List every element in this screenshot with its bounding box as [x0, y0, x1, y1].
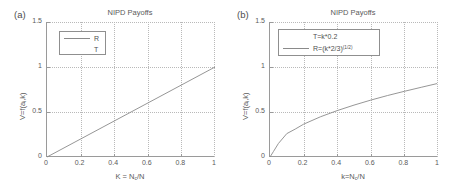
- panel-a-title: NIPD Payoffs: [46, 8, 214, 17]
- panel-a-legend[interactable]: R T: [59, 31, 106, 55]
- panel-a-ylabel: V=f(ai,k): [18, 92, 27, 120]
- panel-b-xlabel: k=Nc/N: [269, 172, 437, 181]
- legend-entry-R[interactable]: R: [60, 32, 105, 44]
- legend-label-T: T: [94, 46, 98, 53]
- panel-b-ylabel-pre: V=f(a: [241, 102, 250, 120]
- panel-a-ylabel-post: ,k): [18, 92, 27, 100]
- xtick-label-0: 0: [259, 159, 279, 166]
- xtick-label-1: 1: [204, 159, 224, 166]
- ytick-label-1.5: 1.5: [20, 17, 42, 24]
- legend-label-R-exponent: (1/2): [343, 45, 353, 50]
- panel-a-ylabel-pre: V=f(a: [18, 102, 27, 120]
- xtick-label-0.6: 0.6: [360, 159, 380, 166]
- panel-b-xlabel-post: /N: [357, 172, 365, 181]
- ytick-label-1: 1: [243, 62, 265, 69]
- xtick-label-0.6: 0.6: [137, 159, 157, 166]
- legend-entry-R[interactable]: R=(k*2/3)(1/2): [279, 42, 379, 54]
- xtick-label-0.4: 0.4: [326, 159, 346, 166]
- ytick-label-0: 0: [243, 152, 265, 159]
- legend-entry-T[interactable]: T=k*0.2: [279, 30, 379, 42]
- legend-label-R: R=(k*2/3)(1/2): [313, 45, 353, 52]
- panel-b-ylabel: V=f(ai,k): [241, 92, 250, 120]
- legend-line-swatch-R: [283, 48, 309, 49]
- panel-b-legend[interactable]: T=k*0.2 R=(k*2/3)(1/2): [278, 29, 380, 56]
- xtick-label-0.8: 0.8: [393, 159, 413, 166]
- panel-b-title: NIPD Payoffs: [269, 8, 437, 17]
- legend-line-swatch-T: [64, 49, 90, 50]
- figure-nipd-payoffs: (a) NIPD Payoffs 0 0.2: [0, 0, 457, 194]
- legend-line-swatch-R: [64, 38, 90, 39]
- legend-entry-T[interactable]: T: [60, 44, 105, 55]
- panel-a: (a) NIPD Payoffs 0 0.2: [0, 0, 228, 194]
- ytick-label-1.5: 1.5: [243, 17, 265, 24]
- legend-label-T: T=k*0.2: [313, 33, 337, 40]
- xtick-label-0.2: 0.2: [293, 159, 313, 166]
- legend-label-R: R: [94, 35, 99, 42]
- panel-a-xlabel-post: /N: [137, 172, 145, 181]
- panel-b: (b) NIPD Payoffs 0 0.2 0.4 0.6: [229, 0, 457, 194]
- panel-b-ylabel-post: ,k): [241, 92, 250, 100]
- ytick-label-1: 1: [20, 62, 42, 69]
- xtick-label-0.4: 0.4: [103, 159, 123, 166]
- xtick-label-0.8: 0.8: [170, 159, 190, 166]
- panel-b-xlabel-pre: k=N: [341, 172, 355, 181]
- legend-line-swatch-T: [283, 36, 309, 37]
- xtick-label-0.2: 0.2: [70, 159, 90, 166]
- panel-a-xlabel: K = Nc/N: [46, 172, 214, 181]
- xtick-label-0: 0: [36, 159, 56, 166]
- panel-a-xlabel-pre: K = N: [115, 172, 134, 181]
- legend-label-R-base: R=(k*2/3): [313, 45, 343, 52]
- ytick-label-0: 0: [20, 152, 42, 159]
- xtick-label-1: 1: [427, 159, 447, 166]
